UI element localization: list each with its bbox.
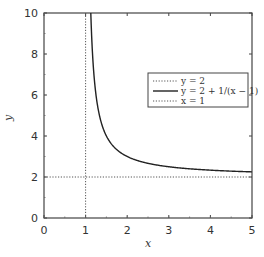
legend: y = 2y = 2 + 1/(x − 1)x = 1 [148,73,258,107]
x-tick-label: 5 [249,224,256,237]
y-tick-label: 6 [31,89,38,102]
legend-label: y = 2 + 1/(x − 1) [180,86,258,96]
x-tick-label: 0 [41,224,48,237]
y-tick-label: 10 [24,7,38,20]
y-tick-label: 2 [31,171,38,184]
x-axis-label: x [145,237,152,250]
x-tick-label: 1 [82,224,89,237]
legend-label: y = 2 [180,76,205,86]
x-tick-label: 2 [124,224,131,237]
plot-area [44,13,252,218]
plot-border [44,13,252,218]
y-tick-label: 8 [31,48,38,61]
x-tick-label: 3 [165,224,172,237]
y-axis-label: y [2,114,15,122]
axis-ticks: 0123450246810 [24,7,256,237]
x-tick-label: 4 [207,224,214,237]
legend-label: x = 1 [181,96,205,106]
y-tick-label: 0 [31,212,38,225]
y-tick-label: 4 [31,130,38,143]
chart: 0123450246810 y = 2y = 2 + 1/(x − 1)x = … [0,0,264,257]
series-group [44,13,252,218]
